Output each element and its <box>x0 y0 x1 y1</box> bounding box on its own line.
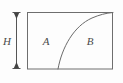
arrowhead-up-icon <box>14 62 19 68</box>
height-dimension: H <box>2 13 20 69</box>
geometry-diagram: H A B <box>0 0 123 83</box>
region-label-b: B <box>87 35 94 47</box>
bounding-rectangle <box>28 13 113 70</box>
arrowhead-down-icon <box>14 13 19 19</box>
dividing-curve <box>58 13 113 70</box>
height-label: H <box>2 35 12 47</box>
region-label-a: A <box>42 35 50 47</box>
figure-container: H A B <box>0 0 123 83</box>
